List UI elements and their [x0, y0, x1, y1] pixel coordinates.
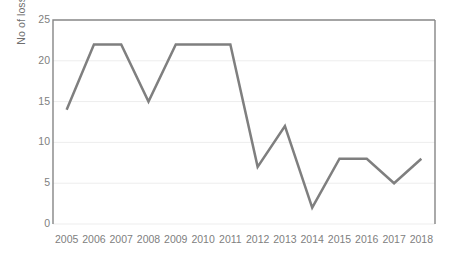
plot-area [0, 0, 463, 263]
x-axis-tick-labels: 2005200620072008200920102011201220132014… [0, 232, 463, 248]
line-chart: No of losses per year 0510152025 2005200… [0, 0, 463, 263]
gridlines [53, 61, 435, 224]
x-tick-label: 2018 [401, 232, 441, 246]
axis-frame [53, 20, 435, 224]
